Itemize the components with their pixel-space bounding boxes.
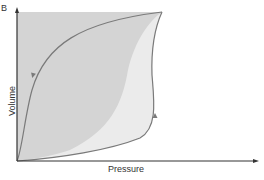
x-axis-label: Pressure (108, 164, 144, 174)
y-axis-label: Volume (7, 81, 17, 121)
x-axis-arrow-icon (253, 159, 259, 163)
y-axis-arrow-icon (15, 7, 19, 13)
pv-loop-diagram (0, 0, 264, 180)
